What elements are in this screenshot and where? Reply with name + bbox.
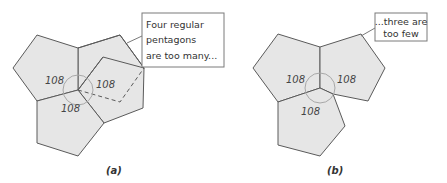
angle-label-right: 108 bbox=[96, 79, 115, 90]
pentagon-bottom bbox=[278, 88, 345, 156]
callout-b-line-2: too few bbox=[383, 28, 419, 39]
angle-label-bottom: 108 bbox=[301, 106, 320, 117]
callout-leader-a bbox=[127, 36, 142, 43]
panel-a: 108 108 108 Four regular pentagons are t… bbox=[13, 13, 224, 176]
angle-label-left: 108 bbox=[286, 74, 305, 85]
angle-label-left: 108 bbox=[45, 75, 64, 86]
pentagon-left bbox=[13, 35, 78, 101]
callout-leader-b bbox=[361, 28, 375, 36]
angle-label-right: 108 bbox=[337, 74, 356, 85]
angle-label-bottom: 108 bbox=[61, 103, 80, 114]
callout-a-line-1: Four regular bbox=[146, 19, 204, 30]
callout-b-line-1: ...three are bbox=[375, 16, 428, 27]
panel-b: 108 108 108 ...three are too few (b) bbox=[253, 13, 427, 176]
callout-a-line-2: pentagons bbox=[146, 34, 196, 45]
pentagon-tiling-diagram: 108 108 108 Four regular pentagons are t… bbox=[0, 0, 447, 183]
pentagon-right bbox=[320, 34, 385, 101]
panel-label-b: (b) bbox=[327, 165, 343, 176]
panel-label-a: (a) bbox=[106, 165, 122, 176]
callout-a-line-3: are too many... bbox=[146, 50, 217, 61]
